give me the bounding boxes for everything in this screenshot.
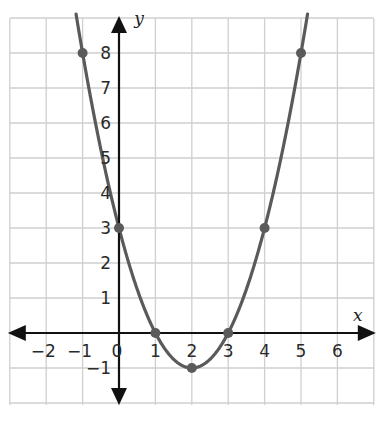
y-axis-label: y <box>133 8 144 28</box>
data-point <box>114 223 124 233</box>
y-tick-label: 4 <box>100 183 111 203</box>
x-tick-label: 4 <box>259 341 270 361</box>
x-tick-label: 0 <box>112 341 123 361</box>
data-point <box>223 328 233 338</box>
data-point <box>260 223 270 233</box>
x-tick-label: 1 <box>150 341 161 361</box>
y-tick-label: 7 <box>100 78 111 98</box>
x-tick-label: −2 <box>31 341 56 361</box>
y-tick-label: 6 <box>100 113 111 133</box>
x-tick-label: 3 <box>223 341 234 361</box>
data-point <box>187 363 197 373</box>
x-tick-label: 2 <box>186 341 197 361</box>
x-axis-left-arrow-icon <box>8 325 26 341</box>
y-tick-label: 5 <box>100 148 111 168</box>
x-axis-label: x <box>353 305 363 325</box>
parabola-chart: −2−10123456−112345678xy <box>0 0 386 423</box>
data-point <box>296 48 306 58</box>
y-tick-label: 8 <box>100 43 111 63</box>
x-axis-right-arrow-icon <box>358 325 376 341</box>
x-tick-label: 5 <box>296 341 307 361</box>
data-point <box>150 328 160 338</box>
y-tick-label: 3 <box>100 218 111 238</box>
data-point <box>78 48 88 58</box>
y-tick-label: 2 <box>100 253 111 273</box>
x-tick-label: 6 <box>332 341 343 361</box>
y-tick-label: −1 <box>86 358 111 378</box>
y-tick-label: 1 <box>100 288 111 308</box>
